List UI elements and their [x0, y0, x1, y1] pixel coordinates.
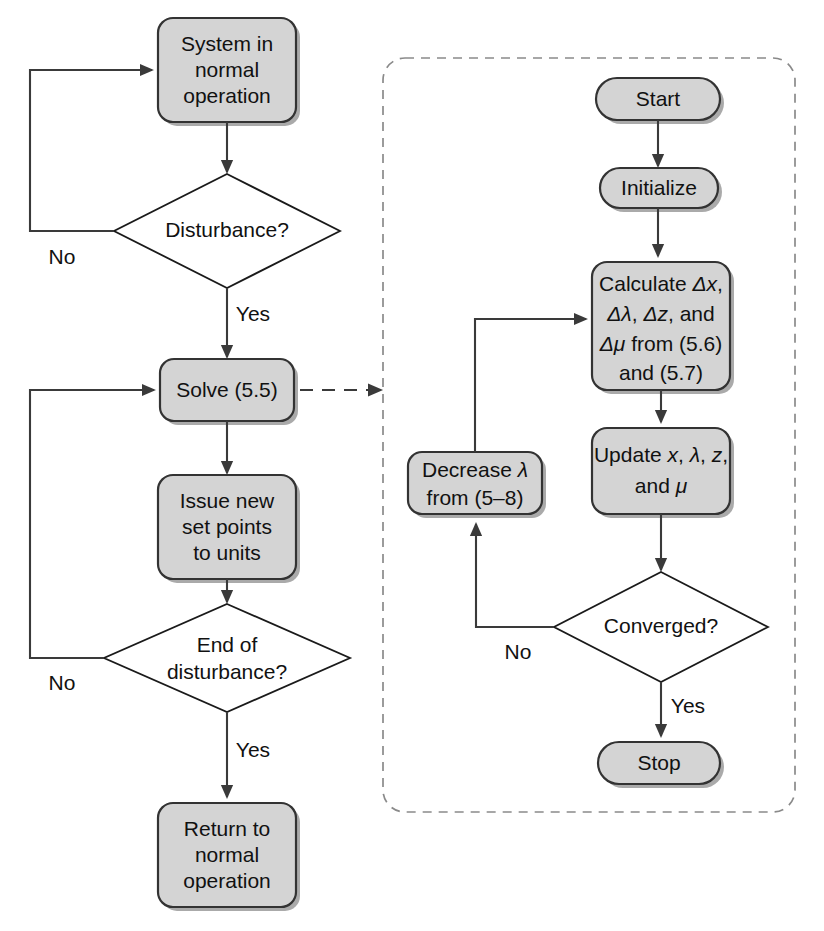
node-calculate-line2: Δλ, Δz, and: [606, 302, 714, 325]
node-decrease-lambda: Decrease λ from (5–8): [408, 452, 546, 518]
node-issue-line3: to units: [193, 541, 261, 564]
node-return-line3: operation: [183, 869, 271, 892]
node-calculate: Calculate Δx, Δλ, Δz, and Δμ from (5.6) …: [592, 262, 734, 394]
node-system-normal-line3: operation: [183, 84, 271, 107]
node-issue-line2: set points: [182, 515, 272, 538]
edge-label-converged-yes: Yes: [671, 694, 705, 717]
node-initialize: Initialize: [600, 168, 722, 212]
edge-label-end-disturbance-no: No: [49, 671, 76, 694]
node-calculate-line1: Calculate Δx,: [599, 272, 723, 295]
node-update: Update x, λ, z, and μ: [592, 428, 734, 518]
node-decrease-line2: from (5–8): [427, 486, 524, 509]
node-disturbance-label: Disturbance?: [165, 218, 289, 241]
flowchart-svg: System in normal operation Disturbance? …: [0, 0, 824, 931]
edge-label-converged-no: No: [505, 640, 532, 663]
inner-process-group-border: [383, 58, 795, 812]
node-end-line2: disturbance?: [167, 660, 287, 683]
node-issue-set-points: Issue new set points to units: [158, 475, 300, 583]
node-end-of-disturbance: End of disturbance?: [104, 604, 350, 712]
node-update-line1: Update x, λ, z,: [594, 443, 728, 466]
node-calculate-line3: Δμ from (5.6): [599, 332, 722, 355]
node-return-line1: Return to: [184, 817, 270, 840]
edge-converged-no-loop: [476, 524, 554, 627]
node-decrease-line1: Decrease λ: [422, 458, 528, 481]
node-solve-label: Solve (5.5): [176, 378, 278, 401]
flowchart-canvas: System in normal operation Disturbance? …: [0, 0, 824, 931]
node-system-normal-line2: normal: [195, 58, 259, 81]
edge-label-disturbance-no: No: [49, 245, 76, 268]
node-issue-line1: Issue new: [180, 489, 275, 512]
node-start: Start: [596, 78, 724, 124]
node-stop: Stop: [598, 742, 724, 788]
node-stop-label: Stop: [637, 751, 680, 774]
node-initialize-label: Initialize: [621, 176, 697, 199]
node-converged-label: Converged?: [604, 614, 718, 637]
node-calculate-line4: and (5.7): [619, 361, 703, 384]
node-system-normal-line1: System in: [181, 32, 273, 55]
node-return-line2: normal: [195, 843, 259, 866]
node-disturbance: Disturbance?: [114, 174, 340, 288]
node-end-line1: End of: [197, 633, 258, 656]
edge-label-end-disturbance-yes: Yes: [236, 738, 270, 761]
edge-label-disturbance-yes: Yes: [236, 302, 270, 325]
edge-end-disturbance-no-loop: [30, 390, 154, 658]
node-start-label: Start: [636, 87, 681, 110]
node-converged: Converged?: [554, 572, 768, 682]
node-update-line2: and μ: [635, 474, 688, 497]
edge-disturbance-no-loop: [30, 70, 152, 231]
node-system-normal: System in normal operation: [158, 18, 300, 126]
node-solve: Solve (5.5): [160, 359, 298, 425]
node-return-normal: Return to normal operation: [158, 803, 300, 911]
edge-decrease-to-calculate: [475, 319, 586, 452]
